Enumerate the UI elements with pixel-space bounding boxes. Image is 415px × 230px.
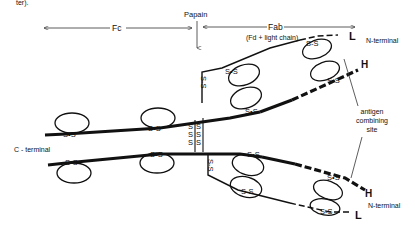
bottom-ch2-disulfide: S•S [150, 150, 163, 159]
fab-sublabel: (Fd + light chain) [246, 34, 298, 42]
top-heavy-chain-label: H [361, 59, 368, 70]
hinge-disulfide-bonds: S S S S S S [188, 118, 203, 152]
svg-text:S: S [188, 138, 193, 147]
antibody-structure-diagram: ter). Fc Papain Fab (Fd + light chain) S… [0, 0, 415, 230]
top-light-chain [202, 40, 300, 103]
bottom-heavy-chain-fab [262, 157, 295, 164]
top-n-terminal-label: N-terminal [366, 37, 399, 44]
top-vl-disulfide: S-S [306, 39, 319, 48]
bottom-ch1-disulfide: S•S [247, 150, 260, 159]
top-vh-disulfide: S•S [327, 76, 340, 85]
antigen-site-label-line2: combining [356, 117, 388, 125]
fc-label: Fc [112, 23, 122, 33]
bottom-hinge-light-disulfide: S-S [206, 159, 215, 172]
top-light-chain-label: L [349, 30, 356, 42]
bottom-light-chain-label: L [355, 209, 362, 221]
top-ch3-disulfide: S•S [63, 130, 76, 139]
bottom-vh-disulfide: S•S [327, 173, 340, 182]
fab-label: Fab [268, 22, 283, 32]
bottom-cl-disulfide: S-S [241, 187, 254, 196]
antigen-site-pointer-top [344, 59, 358, 106]
bottom-heavy-chain-label: H [365, 188, 372, 199]
papain-cleavage-marker: Papain [184, 10, 207, 48]
svg-text:S: S [196, 138, 201, 147]
top-cl-disulfide: S•S [225, 67, 238, 76]
c-terminal-label: C - terminal [14, 146, 51, 153]
top-heavy-chain-fab [260, 100, 292, 112]
bottom-n-terminal-label: N-terminal [368, 202, 401, 209]
bottom-ch3-disulfide: S•S [65, 158, 78, 167]
top-ch2-disulfide: S•S [148, 124, 161, 133]
top-hinge-light-disulfide: S-S [199, 76, 208, 89]
antigen-site-label-line3: site [367, 126, 378, 133]
papain-label: Papain [184, 10, 207, 19]
antigen-combining-site-callout: antigen combining site [344, 59, 388, 178]
fab-span-arrow: Fab (Fd + light chain) [203, 22, 355, 42]
top-ch1-disulfide: S•S [245, 107, 258, 116]
bottom-vl-disulfide: S-S [320, 207, 333, 216]
fc-span-arrow: Fc [44, 23, 192, 33]
antigen-site-pointer-bottom [351, 137, 362, 178]
top-heavy-chain-variable [292, 70, 358, 100]
antigen-site-label-line1: antigen [361, 108, 384, 116]
caption-fragment: ter). [16, 0, 29, 7]
